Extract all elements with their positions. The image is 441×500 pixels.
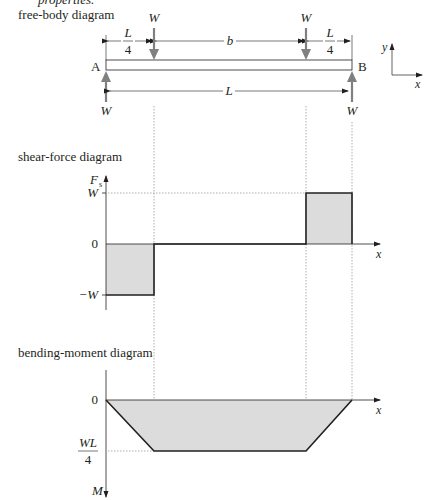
load-arrow-right	[301, 28, 311, 60]
moment-x-label: x	[375, 403, 382, 417]
dim-left-numerator: L	[123, 25, 131, 40]
moment-tick-numerator: WL	[79, 435, 97, 450]
beam-diagram-canvas: properties. free-body diagram L 4 b L 4 …	[0, 0, 441, 500]
shear-force-diagram: shear-force diagram F s W 0 −W x	[18, 149, 382, 310]
reaction-label-right: W	[347, 103, 359, 118]
shear-x-label: x	[375, 247, 382, 261]
dim-right-numerator: L	[325, 25, 333, 40]
shear-tick-minus-w: −W	[78, 287, 99, 302]
moment-heading: bending-moment diagram	[18, 345, 153, 360]
load-label-left: W	[149, 10, 161, 25]
free-body-diagram: free-body diagram L 4 b L 4 A B W	[18, 7, 422, 118]
reaction-arrow-left	[101, 71, 111, 102]
free-body-heading: free-body diagram	[18, 7, 114, 22]
top-clipped-text: properties.	[37, 0, 94, 7]
dim-total-label: L	[224, 83, 232, 98]
shear-tick-w: W	[87, 185, 99, 200]
end-label-b: B	[358, 59, 367, 74]
coordinate-axes	[392, 44, 422, 75]
shear-y-subscript: s	[99, 180, 102, 189]
load-arrow-left	[149, 28, 159, 60]
dim-left-denominator: 4	[125, 42, 132, 57]
shear-region-positive	[306, 193, 352, 244]
load-label-right: W	[301, 10, 313, 25]
axis-y-label: y	[381, 40, 388, 54]
reaction-arrow-right	[347, 71, 357, 102]
bending-moment-diagram: bending-moment diagram 0 WL 4 M x	[18, 345, 382, 498]
moment-tick-zero: 0	[92, 392, 99, 407]
dim-mid-label: b	[227, 33, 234, 48]
dim-right-denominator: 4	[327, 42, 334, 57]
end-label-a: A	[91, 59, 101, 74]
guide-lines	[154, 106, 352, 451]
moment-y-label: M	[91, 483, 104, 498]
beam	[106, 60, 352, 70]
shear-region-negative	[106, 244, 154, 295]
moment-region	[106, 400, 352, 451]
shear-heading: shear-force diagram	[18, 149, 122, 164]
shear-tick-zero: 0	[92, 236, 99, 251]
axis-x-label: x	[414, 77, 421, 91]
reaction-label-left: W	[101, 103, 113, 118]
moment-tick-denominator: 4	[85, 452, 92, 467]
